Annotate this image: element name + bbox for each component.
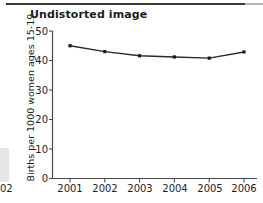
series-line bbox=[70, 46, 244, 58]
data-point-marker bbox=[208, 57, 211, 60]
x-tick-marks bbox=[70, 179, 244, 183]
data-point-marker bbox=[103, 50, 106, 53]
plot-area bbox=[0, 0, 263, 203]
data-point-marker bbox=[138, 54, 141, 57]
chart-figure: Undistorted image Births per 1000 women … bbox=[0, 0, 263, 203]
data-point-marker bbox=[68, 44, 71, 47]
series-markers bbox=[68, 44, 245, 60]
data-point-marker bbox=[242, 50, 245, 53]
data-point-marker bbox=[173, 55, 176, 58]
